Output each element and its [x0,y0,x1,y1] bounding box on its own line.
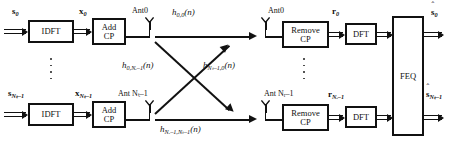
tx0-antenna-wire-h [126,36,150,38]
tx1-antenna-wire-h [126,119,150,121]
feq-label: FEQ [400,72,416,81]
rx0-removecp-block: Remove CP [282,21,329,48]
tx0-idft-label: IDFT [42,27,61,36]
tx0-idft-block: IDFT [28,20,74,43]
rx0-antenna-label: Ant0 [268,6,284,15]
channel-label-h-0-0: h0,0(n) [172,7,195,18]
tx0-input-label: s0 [12,6,19,17]
tx1-signal-label: xNₜ–1 [75,88,92,99]
tx1-antenna-mast-icon [149,104,151,113]
rx0-dft-block: DFT [345,23,377,45]
channel-label-h-Nt1-Nr1: hNᵣ–1,Nₜ–1(n) [160,124,201,135]
tx1-idft-label: IDFT [42,110,61,119]
feq-output1-label: ˆsNₜ–1 [426,89,442,100]
tx-ellipsis [50,58,52,84]
tx1-antenna-label: Ant Nₜ–1 [118,89,148,98]
rx1-removecp-block: Remove CP [282,104,329,131]
rx1-removecp-label-line2: CP [300,118,310,127]
tx1-antenna-icon [145,100,154,113]
feq-output0-label: ˆs0 [431,7,438,18]
rx1-antenna-mast-icon [265,104,267,113]
channel-arrowhead-h-Nt1-Nr1 [249,115,257,123]
channel-label-h-0-Nr1: h0,Nᵣ–1(n) [122,60,153,71]
rx1-dft-block: DFT [345,106,377,128]
channel-path-h-0-Nr1 [154,41,230,111]
tx1-idft-block: IDFT [28,103,74,126]
channel-path-h-0-0 [155,36,251,38]
feq-output0-hat: ˆ [431,1,435,10]
rx0-antenna-mast-icon [265,21,267,30]
tx0-antenna-label: Ant0 [132,6,148,15]
channel-arrowhead-h-0-Nr1 [225,103,236,114]
channel-label-h-Nt1-0: hNₜ–1,0(n) [203,60,235,71]
rx1-signal-label: rNᵣ–1 [328,89,344,100]
rx1-dft-label: DFT [353,113,369,122]
tx0-antenna-mast-icon [149,21,151,30]
feq-output1-hat: ˆ [426,83,430,92]
rx1-antenna-wire-h [265,119,283,121]
rx0-dft-label: DFT [353,30,369,39]
rx0-antenna-icon [261,17,270,30]
feq-block: FEQ [392,16,424,136]
rx0-signal-label: r0 [332,6,339,17]
rx0-antenna-wire-h [265,36,283,38]
tx0-signal-label: x0 [79,6,87,17]
channel-path-h-Nt1-0 [154,45,230,115]
rx0-removecp-label-line2: CP [300,35,310,44]
tx1-addcp-block: Add CP [92,101,126,128]
tx1-input-label: sNₜ–1 [8,88,24,99]
tx1-addcp-label-line2: CP [104,115,114,124]
channel-path-h-Nt1-Nr1 [155,119,251,121]
channel-arrowhead-h-0-0 [249,32,257,40]
tx0-antenna-icon [145,17,154,30]
rx1-antenna-label: Ant Nᵣ–1 [264,89,294,98]
feq-output0-arrow [438,31,444,39]
feq-output1-arrow [438,114,444,122]
tx0-addcp-label-line2: CP [104,32,114,41]
rx-ellipsis [303,58,305,84]
mimo-ofdm-block-diagram: s0 IDFT x0 Add CP Ant0 sNₜ–1 IDFT xNₜ–1 … [0,0,457,155]
rx1-antenna-icon [261,100,270,113]
tx0-addcp-block: Add CP [92,18,126,45]
